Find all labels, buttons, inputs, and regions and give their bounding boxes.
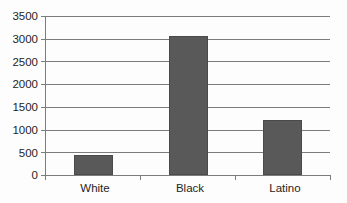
x-axis-label-black: Black — [143, 183, 237, 195]
bar-white[interactable] — [74, 155, 113, 175]
y-tick-label-2500: 2500 — [0, 57, 38, 69]
x-axis-line — [45, 175, 331, 176]
bar-latino[interactable] — [263, 120, 302, 175]
x-tick-mark-2 — [235, 175, 236, 180]
x-axis-label-white: White — [48, 183, 142, 195]
y-tick-label-500: 500 — [0, 148, 38, 160]
x-tick-mark-1 — [140, 175, 141, 180]
x-tick-mark-left — [45, 175, 46, 180]
y-tick-label-3000: 3000 — [0, 34, 38, 46]
bar-chart: 3500 3000 2500 2000 1500 1000 500 0 Whit… — [0, 0, 347, 203]
y-tick-label-1500: 1500 — [0, 102, 38, 114]
y-tick-label-3500: 3500 — [0, 11, 38, 23]
bar-black[interactable] — [169, 36, 208, 175]
x-tick-mark-right — [330, 175, 331, 180]
plot-area — [46, 16, 330, 175]
x-axis-label-latino: Latino — [238, 183, 332, 195]
y-tick-label-1000: 1000 — [0, 125, 38, 137]
y-tick-label-2000: 2000 — [0, 79, 38, 91]
gridline-3500 — [46, 16, 330, 17]
y-tick-label-0: 0 — [0, 170, 38, 182]
